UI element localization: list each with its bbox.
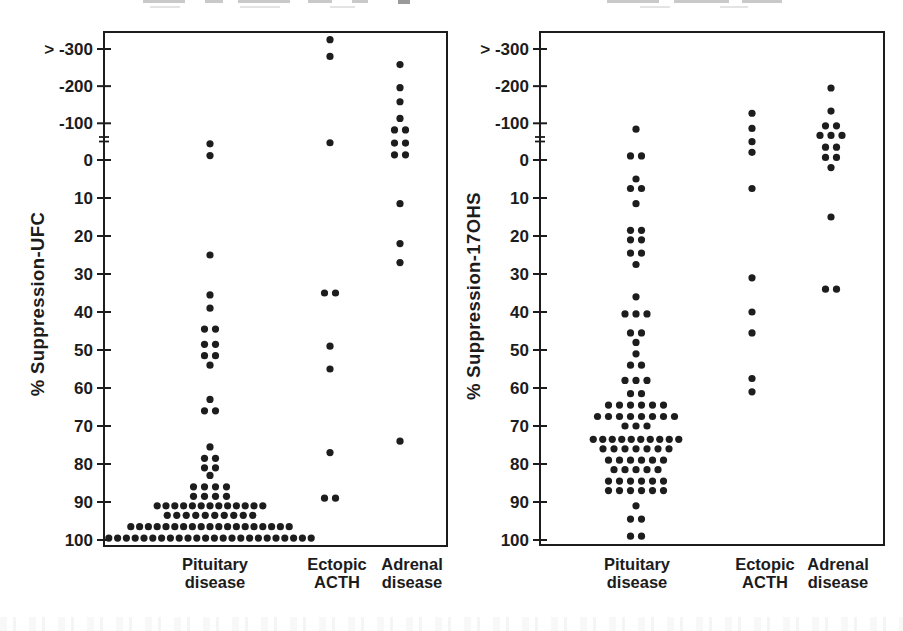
data-dot [206, 291, 213, 298]
cropped-text-mark [240, 6, 280, 8]
data-dot [242, 523, 249, 530]
data-dot [748, 329, 755, 336]
data-dot [632, 293, 639, 300]
data-dot [616, 402, 623, 409]
y-axis-tick-label: > -300 [480, 40, 529, 59]
x-category-label: Pituitarydisease [604, 555, 671, 591]
category-dots-pituitary [105, 140, 315, 541]
y-axis-tick-label: 40 [74, 303, 93, 322]
data-dot [822, 154, 829, 161]
panel-ufc: > -300-200-1000102030405060708090100% Su… [27, 32, 447, 591]
data-dot [167, 535, 174, 542]
data-dot [396, 84, 403, 91]
data-dot [609, 436, 616, 443]
y-axis-tick-label: 80 [74, 455, 93, 474]
data-dot [616, 457, 623, 464]
data-dot [206, 396, 213, 403]
data-dot [171, 502, 178, 509]
data-dot [240, 512, 247, 519]
data-dot [326, 36, 333, 43]
data-dot [638, 402, 645, 409]
data-dot [250, 523, 257, 530]
data-dot [206, 523, 213, 530]
category-dots-ectopic [321, 36, 339, 502]
data-dot [627, 478, 634, 485]
y-axis-tick-label: 30 [74, 265, 93, 284]
y-axis-title: % Suppression-17OHS [463, 192, 484, 400]
data-dot [599, 436, 606, 443]
data-dot [215, 523, 222, 530]
data-dot [627, 413, 634, 420]
category-dots-adrenal [391, 61, 409, 445]
y-axis-tick-label: 10 [510, 189, 529, 208]
y-axis-tick-label: 90 [74, 493, 93, 512]
data-dot [396, 200, 403, 207]
data-dot [621, 422, 628, 429]
data-dot [154, 523, 161, 530]
data-dot [748, 375, 755, 382]
data-dot [206, 502, 213, 509]
data-dot [660, 457, 667, 464]
data-dot [176, 535, 183, 542]
data-dot [621, 466, 628, 473]
data-dot [827, 84, 834, 91]
data-dot [255, 535, 262, 542]
data-dot [212, 483, 219, 490]
data-dot [643, 422, 650, 429]
data-dot [649, 402, 656, 409]
data-dot [660, 478, 667, 485]
y-axis-tick-label: 80 [510, 455, 529, 474]
data-dot [396, 438, 403, 445]
data-dot [675, 436, 682, 443]
data-dot [647, 436, 654, 443]
data-dot [627, 402, 634, 409]
data-dot [621, 310, 628, 317]
data-dot [171, 523, 178, 530]
data-dot [638, 478, 645, 485]
data-dot [246, 535, 253, 542]
data-dot [233, 523, 240, 530]
data-dot [201, 483, 208, 490]
data-dot [605, 478, 612, 485]
data-dot [206, 251, 213, 258]
data-dot [649, 478, 656, 485]
data-dot [250, 502, 257, 509]
data-dot [590, 436, 597, 443]
data-dot [198, 502, 205, 509]
data-dot [605, 402, 612, 409]
data-dot [221, 512, 228, 519]
data-dot [632, 200, 639, 207]
data-dot [242, 502, 249, 509]
x-category-label: EctopicACTH [735, 555, 795, 591]
data-dot [660, 487, 667, 494]
data-dot [638, 329, 645, 336]
category-dots-adrenal [816, 84, 845, 292]
data-dot [162, 502, 169, 509]
data-dot [201, 341, 208, 348]
data-dot [649, 487, 656, 494]
data-dot [201, 352, 208, 359]
y-axis-tick-label: 40 [510, 303, 529, 322]
data-dot [833, 144, 840, 151]
data-dot [206, 472, 213, 479]
data-dot [212, 352, 219, 359]
data-dot [136, 523, 143, 530]
data-dot [638, 362, 645, 369]
data-dot [627, 516, 634, 523]
data-dot [223, 483, 230, 490]
data-dot [211, 535, 218, 542]
data-dot [643, 310, 650, 317]
plot-box [104, 32, 447, 546]
y-axis-tick-label: 70 [510, 417, 529, 436]
panel-17ohs: > -300-200-1000102030405060708090100% Su… [463, 32, 884, 591]
data-dot [660, 402, 667, 409]
data-dot [610, 466, 617, 473]
data-dot [201, 464, 208, 471]
data-dot [201, 407, 208, 414]
data-dot [259, 523, 266, 530]
data-dot [326, 53, 333, 60]
y-axis-tick-label: 30 [510, 265, 529, 284]
data-dot [180, 502, 187, 509]
data-dot [224, 502, 231, 509]
data-dot [154, 502, 161, 509]
